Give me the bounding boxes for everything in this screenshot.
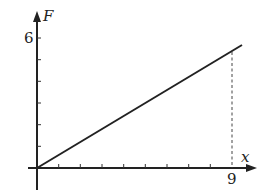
y-axis-arrow-icon — [33, 11, 41, 22]
data-line — [37, 45, 242, 168]
x-axis-label: x — [241, 148, 250, 166]
chart: F 6 x 9 — [0, 0, 264, 193]
y-axis-label: F — [42, 7, 54, 25]
x-tick-label-9: 9 — [227, 170, 237, 188]
y-tick-label-6: 6 — [24, 29, 34, 47]
